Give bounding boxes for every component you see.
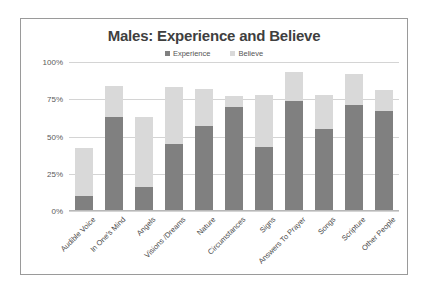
legend-item[interactable]: Experience (165, 49, 211, 58)
bar-group[interactable] (345, 62, 363, 211)
x-axis-tick-label: Songs (316, 215, 337, 236)
bar-segment-believe[interactable] (105, 86, 123, 117)
legend-swatch-icon (230, 51, 235, 56)
bar-group[interactable] (375, 62, 393, 211)
bar-segment-experience[interactable] (315, 129, 333, 211)
legend-label: Believe (238, 49, 263, 58)
x-axis-tick-label: Signs (258, 215, 278, 235)
bar-segment-experience[interactable] (135, 187, 153, 211)
chart-frame: Males: Experience and Believe Experience… (20, 18, 408, 275)
bar-group[interactable] (285, 62, 303, 211)
legend-item[interactable]: Believe (230, 49, 263, 58)
x-axis: Audible VoiceIn One's MindAngelsVisions … (69, 211, 399, 291)
bar-segment-experience[interactable] (225, 107, 243, 211)
chart-legend: ExperienceBelieve (21, 49, 407, 58)
bar-group[interactable] (195, 62, 213, 211)
bar-segment-experience[interactable] (345, 105, 363, 211)
bar-segment-believe[interactable] (165, 87, 183, 144)
bar-segment-experience[interactable] (105, 117, 123, 211)
y-axis-tick-label: 75% (47, 95, 63, 104)
bar-segment-believe[interactable] (285, 72, 303, 100)
y-axis-tick-label: 100% (43, 58, 63, 67)
bar-segment-believe[interactable] (135, 117, 153, 187)
bars-layer (69, 62, 399, 211)
x-axis-tick-label: Angels (135, 215, 158, 238)
bar-segment-experience[interactable] (75, 196, 93, 211)
bar-segment-believe[interactable] (315, 95, 333, 129)
y-axis-tick-label: 50% (47, 132, 63, 141)
bar-segment-believe[interactable] (345, 74, 363, 105)
bar-group[interactable] (225, 62, 243, 211)
bar-segment-experience[interactable] (255, 147, 273, 211)
y-axis-tick-label: 0% (51, 207, 63, 216)
bar-segment-experience[interactable] (285, 101, 303, 211)
x-axis-tick-label: Scripture (340, 215, 368, 243)
bar-segment-believe[interactable] (225, 96, 243, 106)
legend-swatch-icon (165, 51, 170, 56)
plot-area (69, 62, 399, 211)
bar-segment-believe[interactable] (195, 89, 213, 126)
bar-group[interactable] (105, 62, 123, 211)
bar-segment-believe[interactable] (75, 148, 93, 196)
chart-title: Males: Experience and Believe (21, 27, 407, 44)
y-axis-tick-label: 25% (47, 169, 63, 178)
bar-segment-believe[interactable] (375, 90, 393, 111)
bar-group[interactable] (255, 62, 273, 211)
bar-group[interactable] (315, 62, 333, 211)
bar-group[interactable] (135, 62, 153, 211)
bar-segment-experience[interactable] (165, 144, 183, 211)
bar-group[interactable] (165, 62, 183, 211)
y-axis: 0%25%50%75%100% (27, 62, 65, 211)
x-axis-tick-label: Nature (195, 215, 217, 237)
bar-group[interactable] (75, 62, 93, 211)
bar-segment-experience[interactable] (195, 126, 213, 211)
bar-segment-experience[interactable] (375, 111, 393, 211)
bar-segment-believe[interactable] (255, 95, 273, 147)
legend-label: Experience (173, 49, 211, 58)
